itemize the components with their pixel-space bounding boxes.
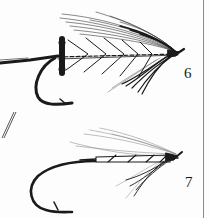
- illustration-plate: 6 7: [0, 0, 210, 218]
- fly-7-drawing: [31, 128, 182, 212]
- fly-6-drawing: [0, 12, 184, 104]
- vertical-rule: [203, 0, 204, 218]
- fly-illustrations: [0, 0, 210, 218]
- fragment-lines: [2, 112, 16, 138]
- figure-number-6: 6: [184, 66, 192, 81]
- figure-number-7: 7: [185, 175, 193, 190]
